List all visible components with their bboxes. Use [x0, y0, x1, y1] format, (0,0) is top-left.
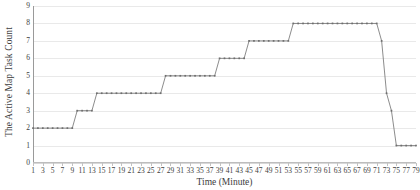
data-point-marker	[189, 75, 191, 77]
x-tick-label-57: 57	[304, 167, 312, 175]
data-point-marker	[76, 110, 78, 112]
data-point-marker	[238, 57, 240, 59]
data-point-marker	[297, 23, 299, 25]
data-point-marker	[415, 145, 417, 147]
data-point-marker	[214, 75, 216, 77]
data-point-marker	[184, 75, 186, 77]
data-point-marker	[371, 23, 373, 25]
data-point-marker	[204, 75, 206, 77]
x-tick-label-23: 23	[137, 167, 145, 175]
x-tick-label-47: 47	[255, 167, 263, 175]
data-point-marker	[199, 75, 201, 77]
data-point-marker	[140, 92, 142, 94]
y-tick-label-8: 8	[26, 20, 30, 28]
data-point-marker	[37, 127, 39, 129]
y-tick-label-5: 5	[26, 72, 30, 80]
data-point-marker	[233, 57, 235, 59]
data-point-marker	[400, 145, 402, 147]
data-point-marker	[175, 75, 177, 77]
x-tick-label-37: 37	[206, 167, 214, 175]
y-tick-label-6: 6	[26, 55, 30, 63]
data-point-marker	[317, 23, 319, 25]
x-tick-label-77: 77	[402, 167, 410, 175]
data-point-marker	[155, 92, 157, 94]
data-point-marker	[337, 23, 339, 25]
data-point-marker	[57, 127, 59, 129]
data-point-marker	[386, 92, 388, 94]
data-point-marker	[67, 127, 69, 129]
data-point-marker	[179, 75, 181, 77]
x-tick-label-3: 3	[41, 167, 45, 175]
data-point-marker	[209, 75, 211, 77]
x-tick-label-43: 43	[235, 167, 243, 175]
data-point-marker	[263, 40, 265, 42]
data-point-marker	[292, 23, 294, 25]
data-point-marker	[135, 92, 137, 94]
data-point-marker	[194, 75, 196, 77]
x-tick-label-59: 59	[314, 167, 322, 175]
x-tick-label-31: 31	[177, 167, 185, 175]
data-point-marker	[278, 40, 280, 42]
data-point-marker	[376, 23, 378, 25]
data-point-marker	[248, 40, 250, 42]
data-point-marker	[229, 57, 231, 59]
data-point-marker	[96, 92, 98, 94]
y-tick-label-3: 3	[26, 107, 30, 115]
data-point-marker	[302, 23, 304, 25]
x-tick-label-29: 29	[167, 167, 175, 175]
x-tick-label-53: 53	[285, 167, 293, 175]
x-tick-label-11: 11	[78, 167, 85, 175]
data-point-marker	[91, 110, 93, 112]
data-point-marker	[81, 110, 83, 112]
data-point-marker	[381, 40, 383, 42]
data-point-marker	[307, 23, 309, 25]
y-tick-label-2: 2	[26, 124, 30, 132]
data-point-marker	[130, 92, 132, 94]
x-tick-label-1: 1	[31, 167, 35, 175]
data-point-marker	[62, 127, 64, 129]
data-point-marker	[405, 145, 407, 147]
data-point-marker	[52, 127, 54, 129]
y-axis-title-label: The Active Map Task Count	[4, 27, 14, 137]
data-point-marker	[32, 127, 34, 129]
x-tick-label-15: 15	[98, 167, 106, 175]
data-point-marker	[327, 23, 329, 25]
y-tick-label-9: 9	[26, 2, 30, 10]
x-tick-label-41: 41	[226, 167, 234, 175]
x-tick-label-21: 21	[127, 167, 135, 175]
y-tick-label-0: 0	[26, 159, 30, 167]
x-tick-label-35: 35	[196, 167, 204, 175]
series-polyline	[33, 23, 416, 145]
x-tick-label-13: 13	[88, 167, 96, 175]
y-axis-title: The Active Map Task Count	[0, 0, 18, 163]
data-point-marker	[366, 23, 368, 25]
data-point-marker	[361, 23, 363, 25]
x-tick-label-39: 39	[216, 167, 224, 175]
x-tick-label-65: 65	[344, 167, 352, 175]
data-point-marker	[71, 127, 73, 129]
x-tick-label-79: 79	[412, 167, 420, 175]
data-point-marker	[111, 92, 113, 94]
x-tick-label-7: 7	[61, 167, 65, 175]
data-point-marker	[160, 92, 162, 94]
data-point-marker	[283, 40, 285, 42]
x-tick-label-61: 61	[324, 167, 332, 175]
data-point-marker	[346, 23, 348, 25]
x-tick-label-67: 67	[353, 167, 361, 175]
data-point-marker	[287, 40, 289, 42]
x-tick-label-73: 73	[383, 167, 391, 175]
data-point-marker	[145, 92, 147, 94]
data-point-marker	[268, 40, 270, 42]
data-point-marker	[396, 145, 398, 147]
data-point-marker	[342, 23, 344, 25]
data-point-marker	[391, 110, 393, 112]
data-point-marker	[351, 23, 353, 25]
data-point-marker	[86, 110, 88, 112]
data-point-marker	[312, 23, 314, 25]
data-point-marker	[121, 92, 123, 94]
y-tick-label-4: 4	[26, 89, 30, 97]
data-point-marker	[116, 92, 118, 94]
data-point-marker	[42, 127, 44, 129]
data-point-marker	[410, 145, 412, 147]
